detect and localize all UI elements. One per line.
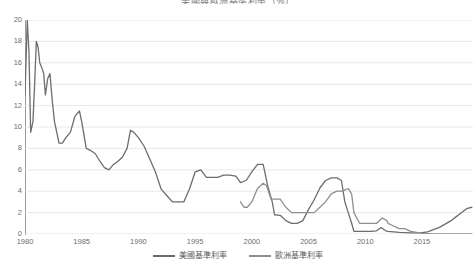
x-axis-tick-labels: 19801985199019952000200520102015	[25, 237, 473, 249]
legend-item-eu[interactable]: 歐洲基準利率	[249, 251, 323, 261]
y-tick-label: 16	[0, 59, 22, 67]
x-tick-label: 2000	[243, 237, 260, 246]
interest-rate-chart: 美國與歐洲基準利率（%） 02468101214161820 198019851…	[0, 0, 476, 265]
y-axis-tick-labels: 02468101214161820	[0, 20, 22, 234]
y-tick-label: 4	[0, 187, 22, 195]
y-tick-label: 6	[0, 166, 22, 174]
legend-item-us[interactable]: 美國基準利率	[153, 251, 227, 261]
chart-title: 美國與歐洲基準利率（%）	[0, 0, 476, 4]
y-tick-label: 20	[0, 16, 22, 24]
x-tick-label: 1985	[73, 237, 90, 246]
x-tick-label: 2005	[300, 237, 317, 246]
x-tick-label: 1995	[187, 237, 204, 246]
chart-legend: 美國基準利率歐洲基準利率	[0, 249, 476, 263]
y-tick-label: 8	[0, 144, 22, 152]
legend-swatch	[153, 255, 175, 257]
x-tick-label: 2010	[357, 237, 374, 246]
y-tick-label: 2	[0, 209, 22, 217]
plot-svg	[25, 20, 473, 234]
legend-label: 美國基準利率	[179, 251, 227, 261]
plot-area	[25, 20, 473, 234]
y-tick-label: 14	[0, 80, 22, 88]
x-tick-label: 1990	[130, 237, 147, 246]
series-line-us	[25, 20, 472, 233]
x-tick-label: 2015	[414, 237, 431, 246]
legend-label: 歐洲基準利率	[275, 251, 323, 261]
gridlines	[25, 20, 473, 234]
y-tick-label: 18	[0, 37, 22, 45]
y-tick-label: 10	[0, 123, 22, 131]
legend-swatch	[249, 255, 271, 257]
x-tick-label: 1980	[17, 237, 34, 246]
y-tick-label: 12	[0, 102, 22, 110]
